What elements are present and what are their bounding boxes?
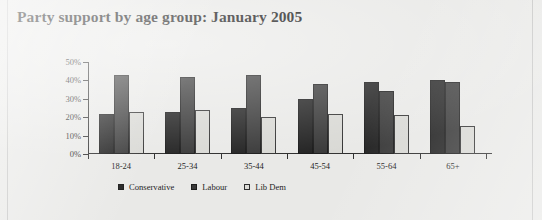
page-frame-left-rule [7, 0, 8, 220]
legend-item-conservative[interactable]: Conservative [118, 182, 174, 192]
bar-group: 18-24 [88, 62, 154, 154]
bar-conservative [430, 80, 445, 154]
page-frame-right-rule [532, 0, 533, 220]
bar-labour [379, 91, 394, 154]
x-axis-tick-label: 18-24 [111, 161, 131, 171]
x-axis-tick-label: 25-34 [178, 161, 198, 171]
bar-lib-dem [460, 126, 475, 154]
bar-conservative [231, 108, 246, 154]
legend-item-libdem[interactable]: Lib Dem [244, 182, 286, 192]
legend-item-label: Labour [202, 182, 227, 192]
bar-labour [114, 75, 129, 154]
bar-group: 65+ [420, 62, 486, 154]
bar-lib-dem [129, 112, 144, 154]
x-axis-tick-mark [420, 154, 421, 159]
legend-swatch-icon [244, 184, 250, 190]
bar-labour [180, 77, 195, 154]
bar-group: 25-34 [154, 62, 220, 154]
x-axis-tick-mark [88, 154, 89, 159]
bar-labour [313, 84, 328, 154]
legend-item-label: Conservative [129, 182, 174, 192]
x-axis-tick-mark [154, 154, 155, 159]
bar-labour [445, 82, 460, 154]
y-axis-tick-label: 20% [65, 112, 81, 122]
chart-figure: Party support by age group: January 2005… [0, 0, 542, 220]
bar-lib-dem [261, 117, 276, 154]
chart-legend: ConservativeLabourLib Dem [118, 182, 286, 192]
x-axis-tick-label: 35-44 [244, 161, 264, 171]
bar-group: 35-44 [221, 62, 287, 154]
bar-lib-dem [394, 115, 409, 154]
bar-labour [246, 75, 261, 154]
legend-item-label: Lib Dem [255, 182, 286, 192]
legend-swatch-icon [191, 184, 197, 190]
x-axis-tick-mark [353, 154, 354, 159]
x-axis-tick-label: 65+ [446, 161, 459, 171]
bar-lib-dem [195, 110, 210, 154]
bar-lib-dem [328, 114, 343, 154]
bar-conservative [364, 82, 379, 154]
bars-layer: 18-2425-3435-4445-5455-6465+ [88, 62, 486, 154]
bar-group: 55-64 [353, 62, 419, 154]
bar-conservative [298, 99, 313, 154]
bar-conservative [165, 112, 180, 154]
y-axis-tick-label: 50% [65, 57, 81, 67]
x-axis-tick-mark [221, 154, 222, 159]
y-axis-tick-label: 30% [65, 94, 81, 104]
bar-group: 45-54 [287, 62, 353, 154]
x-axis-tick-label: 45-54 [310, 161, 330, 171]
y-axis-tick-label: 40% [65, 75, 81, 85]
y-axis-tick-label: 0% [70, 149, 81, 159]
legend-item-labour[interactable]: Labour [191, 182, 227, 192]
x-axis-tick-mark [287, 154, 288, 159]
y-axis-tick-label: 10% [65, 131, 81, 141]
bar-conservative [99, 114, 114, 154]
legend-swatch-icon [118, 184, 124, 190]
x-axis-tick-label: 55-64 [377, 161, 397, 171]
chart-title: Party support by age group: January 2005 [17, 8, 302, 26]
plot-area: 50%40%30%20%10%0% 18-2425-3435-4445-5455… [88, 62, 486, 154]
x-axis-end-tick-mark [486, 154, 487, 159]
